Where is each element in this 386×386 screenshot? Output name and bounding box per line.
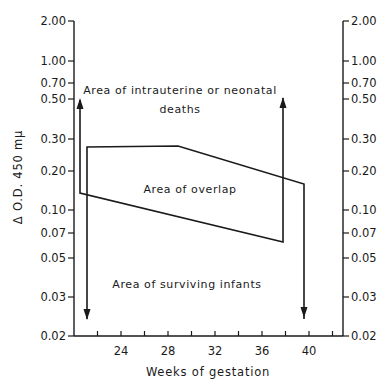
left-y-tick-label: 0.05	[40, 251, 66, 265]
arrow-up-icon	[77, 98, 84, 109]
arrow-up-icon	[280, 97, 287, 108]
chart-canvas: 2.001.000.700.500.300.200.100.070.050.03…	[0, 0, 386, 386]
right-y-axis-ticks: 2.001.000.700.500.300.200.100.070.050.03…	[343, 14, 377, 343]
left-y-tick-label: 0.07	[40, 226, 66, 240]
annotation-overlap: Area of overlap	[143, 183, 236, 196]
left-y-axis-ticks: 2.001.000.700.500.300.200.100.070.050.03…	[40, 14, 74, 343]
y-axis-title: Δ O.D. 450 mμ	[11, 130, 25, 224]
right-y-tick-label: 0.20	[351, 164, 377, 178]
x-axis-ticks: 2428323640	[98, 331, 333, 358]
right-y-tick-label: 0.30	[351, 132, 377, 146]
x-tick-label: 40	[302, 344, 317, 358]
right-y-tick-label: 2.00	[351, 14, 377, 28]
x-tick-label: 28	[161, 344, 176, 358]
left-y-tick-label: 0.20	[40, 164, 66, 178]
right-y-tick-label: 0.02	[351, 329, 377, 343]
lower-boundary-line	[80, 98, 283, 242]
annotation-deaths-line2: deaths	[159, 103, 200, 116]
left-y-tick-label: 0.03	[40, 290, 66, 304]
right-y-tick-label: 0.07	[351, 226, 377, 240]
left-y-tick-label: 0.50	[40, 92, 66, 106]
annotation-surviving: Area of surviving infants	[112, 278, 261, 291]
x-tick-label: 36	[255, 344, 270, 358]
x-axis-title: Weeks of gestation	[146, 365, 270, 379]
left-y-tick-label: 2.00	[40, 14, 66, 28]
left-y-tick-label: 0.70	[40, 76, 66, 90]
right-y-tick-label: 0.03	[351, 290, 377, 304]
arrow-down-icon	[301, 307, 308, 318]
left-y-tick-label: 0.10	[40, 203, 66, 217]
left-y-tick-label: 0.30	[40, 132, 66, 146]
right-y-tick-label: 0.70	[351, 76, 377, 90]
right-y-tick-label: 0.10	[351, 203, 377, 217]
x-tick-label: 32	[208, 344, 223, 358]
right-y-tick-label: 1.00	[351, 54, 377, 68]
upper-boundary-line	[87, 146, 304, 319]
right-y-tick-label: 0.05	[351, 251, 377, 265]
chart-figure: 2.001.000.700.500.300.200.100.070.050.03…	[0, 0, 386, 386]
left-y-tick-label: 0.02	[40, 329, 66, 343]
x-tick-label: 24	[114, 344, 129, 358]
annotation-deaths-line1: Area of intrauterine or neonatal	[83, 84, 277, 97]
arrow-down-icon	[84, 309, 91, 320]
left-y-tick-label: 1.00	[40, 54, 66, 68]
right-y-tick-label: 0.50	[351, 92, 377, 106]
